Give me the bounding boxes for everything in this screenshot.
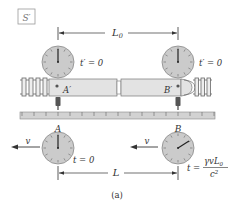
formula-numerator: γvL0: [204, 156, 224, 167]
relativity-diagram: S′ L0 t′ = 0: [0, 0, 230, 207]
train-car-1: [49, 79, 117, 96]
train: A′ B′: [20, 78, 212, 96]
frame-label-box: S′: [18, 9, 35, 24]
velocity-label-b: v: [145, 136, 150, 146]
arrowhead-right-icon: [172, 31, 177, 34]
figure-caption: (a): [111, 190, 123, 200]
right-coupling: [193, 78, 212, 96]
ground-ruler: [20, 112, 215, 119]
train-clock-b-reading: t′ = 0: [199, 58, 223, 68]
arrow-left-icon: [11, 145, 18, 150]
formula-denominator: c2: [210, 169, 219, 180]
frame-label: S′: [22, 13, 30, 23]
arrowhead-left-icon: [59, 31, 64, 34]
marker-a-prime-dot: [55, 84, 58, 87]
ground-clock-b-reading: t = γvL0 c2: [187, 156, 228, 179]
proper-length-dimension: L0: [58, 27, 178, 40]
arrowhead-left-icon: [59, 171, 64, 174]
ground-clock-a-reading: t = 0: [73, 155, 95, 165]
left-coupling: [20, 78, 50, 96]
velocity-label-a: v: [26, 136, 31, 146]
ground-clock-a: [42, 132, 74, 164]
sensor-a: [56, 97, 61, 110]
sensor-b: [176, 97, 181, 110]
arrow-left-icon: [130, 145, 137, 150]
train-clock-a-reading: t′ = 0: [80, 58, 104, 68]
train-point-b-prime-label: B′: [163, 85, 172, 95]
ground-clock-b: [162, 132, 194, 164]
marker-b-prime-dot: [176, 84, 179, 87]
contracted-length-label: L: [112, 167, 120, 178]
velocity-arrow-a: v: [11, 136, 40, 150]
velocity-arrow-b: v: [130, 136, 158, 150]
svg-text:t =: t =: [187, 163, 200, 173]
train-clock-b-prime: [162, 46, 194, 78]
car-connector: [117, 81, 121, 94]
proper-length-label: L0: [111, 27, 123, 40]
train-clock-a-prime: [42, 46, 74, 78]
contracted-length-dimension: L: [58, 166, 178, 180]
train-point-a-prime-label: A′: [62, 85, 71, 95]
arrowhead-right-icon: [172, 171, 177, 174]
